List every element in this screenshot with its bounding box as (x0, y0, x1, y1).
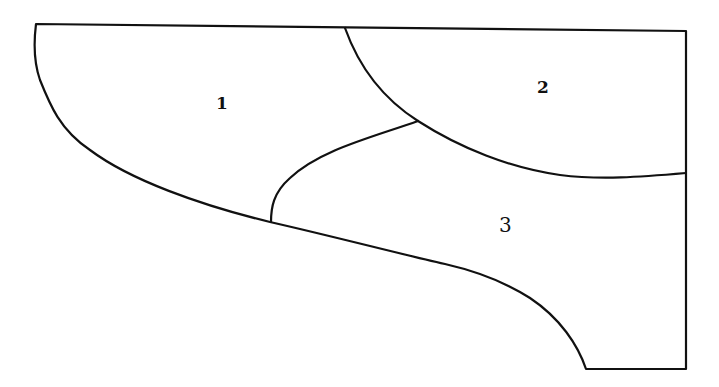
region-1-label: 1 (216, 93, 228, 113)
region-1-3-boundary (271, 121, 418, 222)
region-partition-diagram: 1 2 3 (0, 0, 719, 387)
region-2-boundary (345, 28, 686, 178)
region-2-label: 2 (537, 77, 549, 97)
region-3-label: 3 (499, 213, 512, 237)
outer-boundary (35, 24, 686, 369)
